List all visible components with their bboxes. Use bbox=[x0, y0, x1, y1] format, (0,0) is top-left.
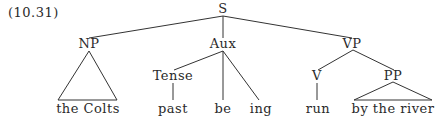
leaf-the-colts: the Colts bbox=[56, 102, 120, 116]
node-np: NP bbox=[78, 37, 99, 51]
node-v: V bbox=[312, 69, 322, 83]
node-tense: Tense bbox=[153, 69, 194, 83]
node-aux: Aux bbox=[210, 37, 237, 51]
node-pp: PP bbox=[384, 69, 403, 83]
node-s: S bbox=[218, 2, 227, 16]
leaf-be: be bbox=[214, 102, 231, 116]
node-vp: VP bbox=[342, 37, 361, 51]
leaf-run: run bbox=[306, 102, 330, 116]
example-number: (10.31) bbox=[8, 6, 59, 20]
leaf-by-the-river: by the river bbox=[352, 102, 435, 116]
leaf-past: past bbox=[158, 102, 188, 116]
leaf-ing: ing bbox=[250, 102, 272, 116]
